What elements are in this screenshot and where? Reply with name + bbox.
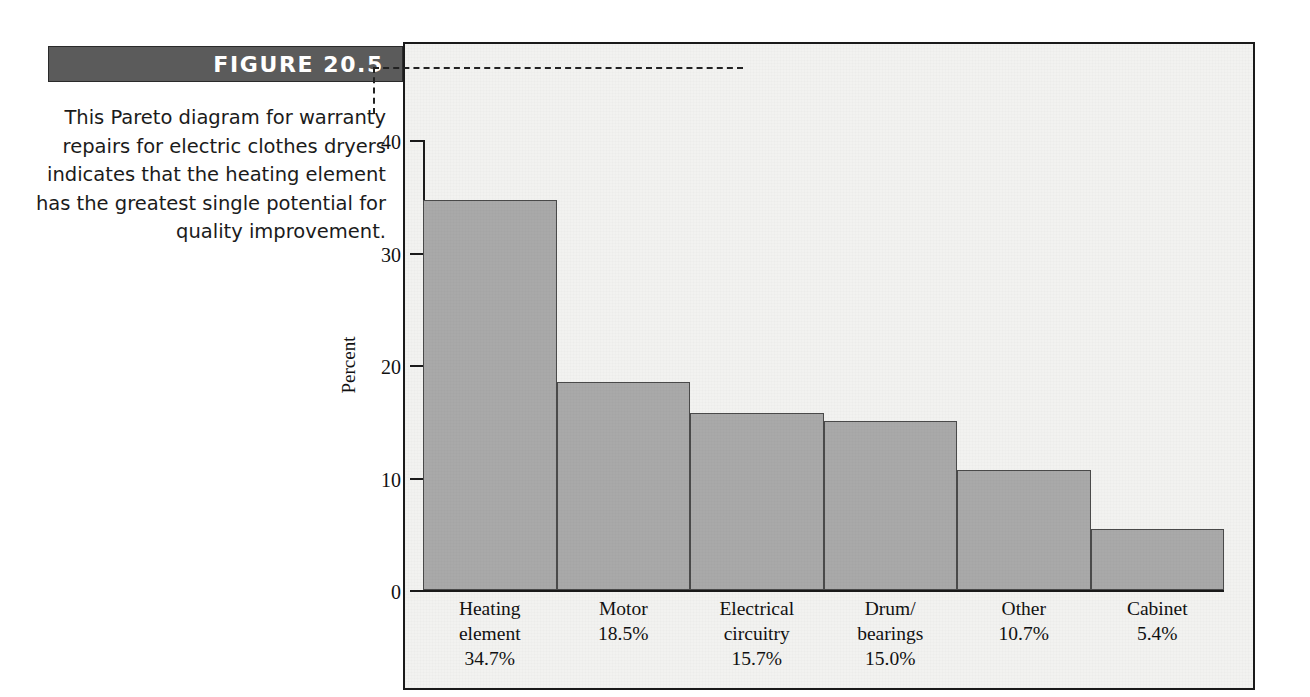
x-axis-category-name: Other xyxy=(957,596,1091,621)
x-axis-category: Cabinet5.4% xyxy=(1091,596,1225,684)
x-axis-category-name: Motor xyxy=(557,596,691,621)
y-axis-tick: 40 xyxy=(410,140,423,142)
y-axis-tick: 30 xyxy=(410,253,423,255)
bar xyxy=(423,200,557,590)
x-axis-category-percent: 34.7% xyxy=(423,646,557,671)
y-axis-title: Percent xyxy=(338,337,360,394)
x-axis-category-percent: 5.4% xyxy=(1091,621,1225,646)
x-axis-category-labels: Heating element34.7%Motor18.5%Electrical… xyxy=(423,596,1224,684)
y-axis-tick-label: 10 xyxy=(381,468,401,491)
bar xyxy=(1091,529,1225,590)
x-axis-category: Other10.7% xyxy=(957,596,1091,684)
leader-line-horizontal xyxy=(373,67,743,69)
x-axis-category-name: Drum/ bearings xyxy=(824,596,958,646)
bar xyxy=(957,470,1091,590)
x-axis-category: Motor18.5% xyxy=(557,596,691,684)
x-axis-category-percent: 15.0% xyxy=(824,646,958,671)
x-axis-category-name: Cabinet xyxy=(1091,596,1225,621)
x-axis-category-percent: 10.7% xyxy=(957,621,1091,646)
y-axis-tick: 20 xyxy=(410,365,423,367)
leader-line-vertical xyxy=(373,67,375,114)
x-axis-category: Drum/ bearings15.0% xyxy=(824,596,958,684)
y-axis-tick: 10 xyxy=(410,478,423,480)
plot-area: Percent 010203040 xyxy=(423,140,1224,590)
y-axis-tick: 0 xyxy=(410,590,423,592)
x-axis-category: Heating element34.7% xyxy=(423,596,557,684)
x-axis-category-percent: 15.7% xyxy=(690,646,824,671)
x-axis-line xyxy=(423,590,1224,592)
y-axis-tick-label: 20 xyxy=(381,356,401,379)
bar xyxy=(557,382,691,590)
bar xyxy=(824,421,958,590)
y-axis-tick-label: 0 xyxy=(391,581,401,604)
x-axis-category-percent: 18.5% xyxy=(557,621,691,646)
figure-banner: FIGURE 20.5 xyxy=(48,46,403,82)
figure-caption: This Pareto diagram for warranty repairs… xyxy=(30,104,386,247)
x-axis-category-name: Electrical circuitry xyxy=(690,596,824,646)
chart-panel: Percent 010203040 Heating element34.7%Mo… xyxy=(403,42,1255,690)
x-axis-category-name: Heating element xyxy=(423,596,557,646)
page-background: Percent 010203040 Heating element34.7%Mo… xyxy=(0,0,1310,697)
bar xyxy=(690,413,824,590)
x-axis-category: Electrical circuitry15.7% xyxy=(690,596,824,684)
bar-series xyxy=(423,140,1224,590)
